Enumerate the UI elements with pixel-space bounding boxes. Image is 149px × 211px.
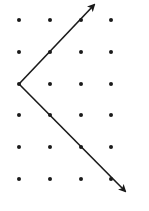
grid-dot: [17, 177, 21, 181]
grid-dot: [79, 177, 83, 181]
grid-dot: [109, 50, 113, 54]
grid-dot: [48, 145, 52, 149]
dot-grid: [17, 18, 113, 181]
grid-dot: [109, 82, 113, 86]
dot-grid-diagram: [0, 0, 149, 211]
grid-dot: [109, 145, 113, 149]
grid-dot: [48, 18, 52, 22]
grid-dot: [79, 50, 83, 54]
grid-dot: [109, 18, 113, 22]
upper-arrow: [19, 5, 94, 84]
arrows: [19, 5, 125, 191]
grid-dot: [17, 50, 21, 54]
grid-dot: [17, 18, 21, 22]
grid-dot: [79, 82, 83, 86]
grid-dot: [17, 145, 21, 149]
grid-dot: [79, 113, 83, 117]
grid-dot: [48, 82, 52, 86]
lower-arrow: [19, 84, 125, 191]
grid-dot: [48, 177, 52, 181]
grid-dot: [17, 113, 21, 117]
grid-dot: [109, 113, 113, 117]
